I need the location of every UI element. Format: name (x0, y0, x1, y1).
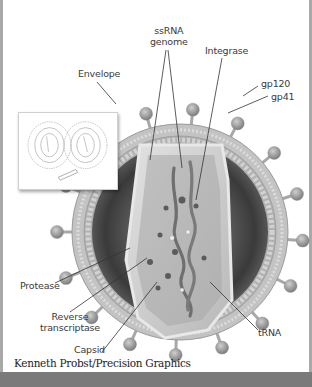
label-gp120: gp120 (261, 78, 290, 89)
label-ssrna-genome: ssRNA genome (150, 25, 188, 47)
label-rt-line1: Reverse (40, 311, 100, 322)
label-ssrna-line1: ssRNA (150, 25, 188, 36)
label-protease: Protease (20, 280, 60, 291)
label-reverse-transcriptase: Reverse transcriptase (40, 311, 100, 333)
label-trna: tRNA (258, 327, 281, 338)
label-envelope: Envelope (78, 68, 120, 79)
image-credit: Kenneth Probst/Precision Graphics (14, 357, 191, 369)
inset-budding-virions (18, 112, 118, 190)
label-ssrna-line2: genome (150, 36, 188, 47)
label-integrase: Integrase (205, 45, 248, 56)
bottom-band (0, 372, 312, 387)
budding-virions-line-art (19, 113, 117, 189)
label-rt-line2: transcriptase (40, 322, 100, 333)
label-capsid: Capsid (74, 344, 105, 355)
label-gp41: gp41 (271, 91, 294, 102)
